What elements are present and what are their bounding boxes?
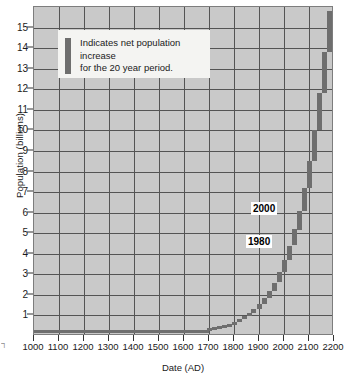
y-axis-tick-label: 14 xyxy=(2,42,28,53)
gridline-horizontal xyxy=(34,110,332,111)
y-axis-tick-label: 2 xyxy=(2,288,28,299)
population-step-bar xyxy=(257,304,262,309)
population-step-bar xyxy=(242,316,247,319)
annotation-callout-2000: 2000 xyxy=(251,202,277,215)
population-step-bar xyxy=(272,283,277,291)
gridline-horizontal xyxy=(34,130,332,131)
population-step-bar xyxy=(237,319,242,322)
gridline-horizontal xyxy=(34,295,332,296)
x-axis-title: Date (AD) xyxy=(33,362,333,373)
gridline-horizontal xyxy=(34,233,332,234)
population-step-bar xyxy=(247,313,252,316)
gridline-horizontal xyxy=(34,151,332,152)
legend-text-line-2: for the 20 year period. xyxy=(80,62,202,75)
gridline-horizontal xyxy=(34,274,332,275)
annotation-callout-1980: 1980 xyxy=(246,235,272,248)
population-step-bar xyxy=(292,229,297,245)
population-step-bar xyxy=(267,291,272,298)
y-axis-tick-label: 10 xyxy=(2,124,28,135)
gridline-vertical xyxy=(284,7,285,334)
legend-swatch-icon xyxy=(65,38,71,74)
gridline-horizontal xyxy=(34,172,332,173)
population-step-bar xyxy=(317,93,322,130)
y-axis-tick-label: 7 xyxy=(2,186,28,197)
population-step-bar xyxy=(297,211,302,230)
y-axis-tick-label: 13 xyxy=(2,62,28,73)
y-axis-tick-label: 15 xyxy=(2,21,28,32)
population-step-bar xyxy=(327,11,332,52)
y-axis-tick-label: 11 xyxy=(2,103,28,114)
gridline-horizontal xyxy=(34,213,332,214)
population-step-bar xyxy=(322,52,327,93)
gridline-horizontal xyxy=(34,315,332,316)
y-axis-tick-label: 6 xyxy=(2,206,28,217)
gridline-horizontal xyxy=(34,192,332,193)
y-axis-tick-label: 1 xyxy=(2,309,28,320)
legend-text-line-1: Indicates net population increase xyxy=(80,37,202,62)
baseline-population-line xyxy=(34,330,209,333)
population-step-bar xyxy=(312,130,317,161)
gridline-horizontal xyxy=(34,28,332,29)
y-axis-tick-label: 8 xyxy=(2,165,28,176)
y-axis-tick-label: 12 xyxy=(2,83,28,94)
edge-artifact-glyph: ┐ xyxy=(1,338,11,348)
gridline-vertical xyxy=(259,7,260,334)
population-step-bar xyxy=(232,322,237,325)
population-step-bar xyxy=(302,188,307,211)
y-axis-tick-label: 3 xyxy=(2,268,28,279)
gridline-vertical xyxy=(234,7,235,334)
x-axis-tick-label: 2200 xyxy=(313,341,348,352)
y-axis-tick-label: 9 xyxy=(2,144,28,155)
population-step-bar xyxy=(277,272,282,282)
population-step-bar xyxy=(251,309,256,313)
population-step-bar xyxy=(262,298,267,304)
y-axis-tick-label: 4 xyxy=(2,247,28,258)
gridline-horizontal xyxy=(34,89,332,90)
population-step-bar xyxy=(282,260,287,272)
legend-text: Indicates net population increase for th… xyxy=(80,37,202,75)
population-step-bar xyxy=(307,161,312,188)
y-axis-tick-label: 5 xyxy=(2,227,28,238)
legend: Indicates net population increase for th… xyxy=(58,30,210,78)
population-step-bar xyxy=(287,246,292,260)
